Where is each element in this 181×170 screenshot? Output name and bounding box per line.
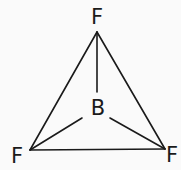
edge-top-right <box>97 32 165 149</box>
edge-bottom <box>30 149 165 150</box>
atom-f-right: F <box>166 143 178 167</box>
bf3-molecule-diagram: F B F F <box>0 0 181 170</box>
bond-b-left <box>30 118 82 150</box>
atom-f-top: F <box>91 5 103 29</box>
edge-top-left <box>30 32 97 150</box>
atom-b-center: B <box>91 96 105 120</box>
atom-f-left: F <box>11 144 23 168</box>
